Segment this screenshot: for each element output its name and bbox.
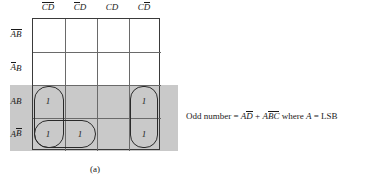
equation-condition-prefix: where — [282, 111, 304, 121]
equation-condition-value: LSB — [321, 111, 338, 121]
row-header-abar-b: AB — [2, 51, 30, 84]
kmap-cell — [96, 18, 128, 51]
kmap-cell — [64, 84, 96, 117]
kmap-cell — [128, 18, 160, 51]
kmap-cell — [96, 117, 128, 150]
column-header-c-dbar: CD — [128, 1, 160, 14]
karnaugh-map-figure: CD CD CD CD AB AB AB AB 1 1 1 1 1 Odd nu… — [0, 0, 366, 190]
row-header-a-bbar: AB — [2, 117, 30, 150]
equation-term1-bar: D — [246, 111, 253, 121]
column-header-cbar-d: CD — [64, 1, 96, 14]
kmap-cell — [64, 18, 96, 51]
equation-term2-bar: BC — [268, 111, 280, 121]
kmap-cell — [128, 51, 160, 84]
kmap-cell — [96, 51, 128, 84]
kmap-cell — [32, 51, 64, 84]
column-header-cbar-dbar: CD — [32, 1, 64, 14]
group-loop-horizontal-bottom — [34, 120, 96, 148]
group-loop-vertical-right — [130, 86, 158, 148]
kmap-cell — [64, 51, 96, 84]
row-header-a-b: AB — [2, 84, 30, 117]
equation-equals: = — [234, 111, 239, 121]
equation-lhs: Odd number — [186, 111, 231, 121]
kmap-cell — [96, 84, 128, 117]
equation-text: Odd number = AD + ABC where A = LSB — [186, 109, 338, 123]
kmap-cell — [32, 18, 64, 51]
equation-condition-equals: = — [314, 111, 319, 121]
column-header-c-d: CD — [96, 1, 128, 14]
figure-caption: (a) — [0, 164, 190, 174]
equation-plus: + — [255, 111, 260, 121]
equation-condition-var: A — [306, 111, 312, 121]
row-header-abar-bbar: AB — [2, 18, 30, 51]
